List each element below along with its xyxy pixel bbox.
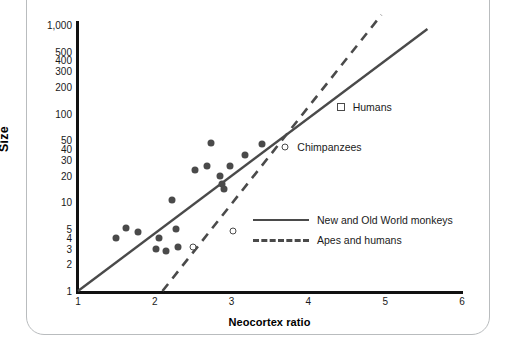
data-point — [190, 244, 197, 251]
annotation-humans: Humans — [353, 101, 392, 113]
data-point — [230, 227, 237, 234]
data-point — [337, 103, 345, 111]
legend-solid-line-icon — [253, 219, 309, 222]
data-point — [217, 172, 224, 179]
data-point — [134, 229, 141, 236]
x-axis-title: Neocortex ratio — [76, 316, 463, 328]
annotation-chimpanzees: Chimpanzees — [297, 141, 361, 153]
data-point — [122, 224, 129, 231]
trendline-monkeys — [78, 29, 427, 291]
data-point — [163, 248, 170, 255]
legend-item-monkeys: New and Old World monkeys — [253, 210, 453, 230]
data-point — [168, 197, 175, 204]
chart-legend: New and Old World monkeys Apes and human… — [253, 210, 453, 250]
data-point — [113, 234, 120, 241]
data-point — [191, 167, 198, 174]
data-point — [155, 234, 162, 241]
data-point — [173, 226, 180, 233]
data-point — [207, 139, 214, 146]
data-point — [242, 152, 249, 159]
data-point — [174, 244, 181, 251]
chart-figure: 1234510203040501002003004005001,000 1234… — [0, 0, 519, 360]
trendlines-layer — [0, 0, 519, 360]
y-axis-title: Size — [0, 126, 11, 152]
legend-label-monkeys: New and Old World monkeys — [317, 214, 453, 226]
data-point — [282, 144, 289, 151]
legend-label-apes: Apes and humans — [317, 234, 402, 246]
data-point — [220, 186, 227, 193]
data-point — [153, 245, 160, 252]
data-point — [259, 141, 266, 148]
data-point — [204, 162, 211, 169]
plot-area: 1234510203040501002003004005001,000 1234… — [0, 0, 519, 360]
data-point — [227, 162, 234, 169]
legend-dashed-line-icon — [253, 239, 309, 242]
legend-item-apes: Apes and humans — [253, 230, 453, 250]
